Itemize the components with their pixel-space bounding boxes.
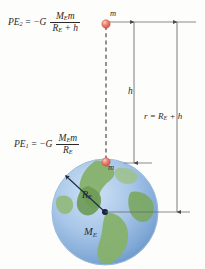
pe2-equals: = xyxy=(25,18,31,28)
pe2-fraction: MEm RE + h xyxy=(50,12,80,34)
pe2-lhs-subscript: 2 xyxy=(20,21,23,28)
mass-marker-top xyxy=(102,20,110,28)
label-mass-top: m xyxy=(110,9,116,18)
pe2-lhs: PE2 xyxy=(8,18,23,28)
label-height: h xyxy=(128,87,133,97)
pe1-lhs: PE1 xyxy=(14,140,29,150)
pe2-numerator: MEm xyxy=(54,12,77,22)
pe2-constant: −G xyxy=(33,18,46,28)
label-earth-radius: RE xyxy=(82,190,92,201)
pe2-denominator: RE + h xyxy=(50,23,80,33)
gravitational-potential-energy-figure: PE2 = −G MEm RE + h PE1 = −G MEm RE r = … xyxy=(0,0,205,269)
equation-pe1: PE1 = −G MEm RE xyxy=(14,134,79,156)
label-orbital-radius: r = RE + h xyxy=(144,112,182,122)
pe1-constant: −G xyxy=(39,140,52,150)
label-mass-surface: m xyxy=(108,163,114,172)
pe1-denominator: RE xyxy=(61,145,75,155)
label-earth-mass: ME xyxy=(84,227,97,238)
pe1-numerator: MEm xyxy=(56,134,79,144)
pe1-fraction: MEm RE xyxy=(56,134,79,156)
equation-pe2: PE2 = −G MEm RE + h xyxy=(8,12,80,34)
pe1-equals: = xyxy=(31,140,37,150)
pe1-lhs-subscript: 1 xyxy=(26,143,29,150)
